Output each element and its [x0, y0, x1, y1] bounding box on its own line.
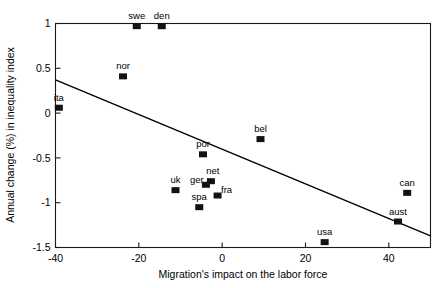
data-point-label: ger [190, 174, 204, 185]
data-point: usa [317, 226, 333, 245]
x-axis-ticks: -40-2002040 [48, 243, 395, 264]
y-tick-label: 0.5 [36, 62, 51, 74]
data-point: ita [54, 92, 65, 111]
data-point-marker [195, 204, 203, 210]
x-tick-label: 0 [219, 252, 225, 264]
y-axis-title: Annual change (%) in inequality index [4, 46, 16, 222]
data-point-label: fra [221, 184, 233, 195]
data-point-label: aust [389, 206, 407, 217]
data-points-group: swedennoritabelpornetgerukcanfraspaaustu… [54, 10, 415, 245]
data-point-label: den [154, 10, 170, 21]
data-point-marker [394, 219, 402, 225]
data-point-marker [172, 187, 180, 193]
y-tick-label: -1 [41, 196, 50, 208]
x-tick-label: -20 [131, 252, 146, 264]
y-tick-label: -0.5 [32, 152, 50, 164]
data-point-label: spa [192, 191, 208, 202]
data-point: bel [254, 123, 267, 142]
data-point: can [400, 177, 415, 196]
data-point: net [206, 165, 220, 184]
data-point-label: bel [254, 123, 267, 134]
chart-canvas: 10.50-0.5-1-1.5 -40-2002040 swedennorita… [0, 0, 446, 288]
data-point-label: swe [128, 10, 145, 21]
data-point-label: usa [317, 226, 333, 237]
regression-line [56, 80, 431, 236]
y-tick-label: 0 [45, 107, 51, 119]
data-point: por [196, 138, 210, 157]
x-tick-label: 20 [300, 252, 312, 264]
data-point-label: uk [170, 174, 180, 185]
data-point: spa [192, 191, 208, 210]
data-point-marker [133, 23, 141, 29]
data-point: den [154, 10, 170, 29]
data-point-marker [403, 190, 411, 196]
data-point-marker [257, 136, 265, 142]
y-tick-label: 1 [45, 17, 51, 29]
data-point-label: can [400, 177, 415, 188]
data-point-marker [199, 151, 207, 157]
data-point-label: ita [54, 92, 65, 103]
data-point: nor [116, 60, 130, 79]
regression-line-group [56, 80, 431, 236]
data-point-marker [55, 105, 63, 111]
data-point-marker [158, 23, 166, 29]
scatter-plot-figure: 10.50-0.5-1-1.5 -40-2002040 swedennorita… [0, 0, 446, 288]
data-point: fra [214, 184, 233, 199]
data-point: swe [128, 10, 145, 29]
data-point-marker [321, 239, 329, 245]
data-point-label: por [196, 138, 210, 149]
y-axis-ticks: 10.50-0.5-1-1.5 [32, 17, 60, 253]
plot-frame [56, 24, 431, 248]
x-axis-title: Migration's impact on the labor force [159, 268, 328, 280]
data-point: uk [170, 174, 180, 193]
data-point-marker [119, 73, 127, 79]
data-point-label: nor [116, 60, 130, 71]
data-point: aust [389, 206, 407, 225]
x-tick-label: 40 [383, 252, 395, 264]
data-point-label: net [206, 165, 220, 176]
x-tick-label: -40 [48, 252, 63, 264]
